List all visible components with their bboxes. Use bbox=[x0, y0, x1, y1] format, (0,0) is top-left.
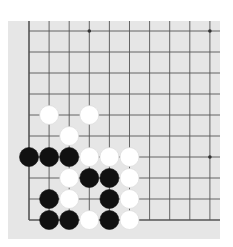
white-stone[interactable] bbox=[120, 190, 139, 209]
black-stone[interactable] bbox=[100, 211, 119, 230]
black-stone[interactable] bbox=[100, 190, 119, 209]
white-stone[interactable] bbox=[80, 211, 99, 230]
white-stone[interactable] bbox=[120, 169, 139, 188]
black-stone[interactable] bbox=[40, 190, 59, 209]
white-stone[interactable] bbox=[80, 148, 99, 167]
white-stone[interactable] bbox=[60, 190, 79, 209]
black-stone[interactable] bbox=[60, 211, 79, 230]
black-stone[interactable] bbox=[80, 169, 99, 188]
white-stone[interactable] bbox=[120, 148, 139, 167]
white-stone[interactable] bbox=[60, 169, 79, 188]
white-stone[interactable] bbox=[80, 106, 99, 125]
black-stone[interactable] bbox=[40, 148, 59, 167]
black-stone[interactable] bbox=[20, 148, 39, 167]
black-stone[interactable] bbox=[60, 148, 79, 167]
black-stone[interactable] bbox=[40, 211, 59, 230]
white-stone[interactable] bbox=[60, 127, 79, 146]
star-point bbox=[88, 29, 92, 33]
black-stone[interactable] bbox=[100, 169, 119, 188]
star-point bbox=[208, 29, 212, 33]
stones-layer bbox=[20, 106, 140, 230]
white-stone[interactable] bbox=[40, 106, 59, 125]
board-grid bbox=[29, 21, 220, 220]
white-stone[interactable] bbox=[120, 211, 139, 230]
star-point bbox=[208, 155, 212, 159]
go-board[interactable] bbox=[0, 0, 233, 247]
white-stone[interactable] bbox=[100, 148, 119, 167]
